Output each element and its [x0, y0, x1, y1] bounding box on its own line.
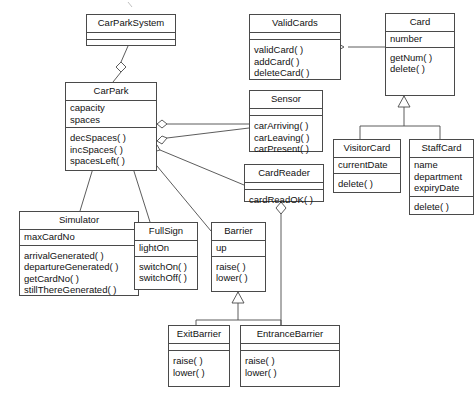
class-attributes-exitbarrier	[169, 344, 229, 351]
operation-row: decSpaces( )	[70, 132, 153, 144]
class-operations-entrancebarrier: raise( ) lower( )	[241, 351, 339, 380]
operation-row: validCard( )	[254, 44, 337, 56]
class-operations-carpark: decSpaces( ) incSpaces( ) spacesLeft( )	[66, 128, 156, 169]
class-attributes-carpark: capacity spaces	[66, 101, 156, 128]
operation-row: switchOn( )	[139, 261, 194, 273]
class-name-entrancebarrier: EntranceBarrier	[241, 326, 339, 344]
class-box-fullsign[interactable]: FullSign lightOn switchOn( ) switchOff( …	[134, 222, 198, 290]
class-attributes-card: number	[386, 32, 454, 48]
operation-row: getNum( )	[390, 52, 451, 64]
operation-row: spacesLeft( )	[70, 155, 153, 167]
generalization-triangle-card	[398, 96, 410, 107]
class-box-entrancebarrier[interactable]: EntranceBarrier raise( ) lower( )	[240, 325, 340, 387]
class-box-cardreader[interactable]: CardReader cardReadOK( )	[244, 164, 324, 202]
operation-row: lower( )	[216, 272, 262, 284]
operation-row: raise( )	[173, 355, 226, 367]
class-box-card[interactable]: Card number getNum( ) delete( )	[385, 13, 455, 96]
class-name-carparksystem: CarParkSystem	[87, 15, 175, 33]
aggregation-diamond-carparksystem	[116, 62, 126, 72]
operation-row: lower( )	[245, 367, 336, 379]
class-attributes-simulator: maxCardNo	[20, 230, 138, 246]
class-name-fullsign: FullSign	[135, 223, 197, 241]
class-attributes-visitorcard: currentDate	[334, 158, 400, 174]
operation-row: delete( )	[414, 201, 470, 213]
class-operations-visitorcard: delete( )	[334, 174, 400, 192]
class-operations-staffcard: delete( )	[410, 197, 473, 215]
class-operations-card: getNum( ) delete( )	[386, 48, 454, 77]
attribute-row: currentDate	[338, 159, 397, 171]
operation-row: lower( )	[173, 367, 226, 379]
class-name-cardreader: CardReader	[245, 165, 323, 183]
class-box-staffcard[interactable]: StaffCard name department expiryDate del…	[409, 139, 474, 215]
operation-row: switchOff( )	[139, 272, 194, 284]
attribute-row: department	[414, 171, 470, 183]
class-operations-barrier: raise( ) lower( )	[212, 257, 265, 286]
class-box-sensor[interactable]: Sensor carArriving( ) carLeaving( ) carP…	[249, 90, 323, 152]
operation-row: raise( )	[245, 355, 336, 367]
class-name-card: Card	[386, 14, 454, 32]
operation-row: arrivalGenerated( )	[24, 250, 135, 262]
operation-row: carLeaving( )	[254, 132, 319, 144]
attribute-row: spaces	[70, 114, 153, 126]
class-attributes-cardreader	[245, 183, 323, 190]
line-carpark-cardreader	[160, 150, 244, 185]
line-carpark-simulator	[80, 165, 94, 211]
class-attributes-staffcard: name department expiryDate	[410, 158, 473, 197]
generalization-triangle-barrier	[232, 292, 244, 303]
attribute-row: number	[390, 33, 451, 45]
operation-row: getCardNo( )	[24, 273, 135, 285]
class-attributes-carparksystem	[87, 33, 175, 40]
class-box-carparksystem[interactable]: CarParkSystem	[86, 14, 176, 46]
operation-row: carArriving( )	[254, 120, 319, 132]
attribute-row: lightOn	[139, 242, 194, 254]
attribute-row: up	[216, 242, 262, 254]
class-name-staffcard: StaffCard	[410, 140, 473, 158]
operation-row: departureGenerated( )	[24, 261, 135, 273]
operation-row: cardReadOK( )	[249, 194, 320, 206]
class-name-simulator: Simulator	[20, 212, 138, 230]
aggregation-diamond-carpark-sensor	[157, 136, 167, 144]
top-stub-mark	[128, 2, 132, 7]
class-attributes-entrancebarrier	[241, 344, 339, 351]
attribute-row: name	[414, 159, 470, 171]
class-operations-fullsign: switchOn( ) switchOff( )	[135, 257, 197, 286]
class-operations-sensor: carArriving( ) carLeaving( ) carPresent(…	[250, 116, 322, 157]
class-operations-carparksystem	[87, 40, 175, 48]
class-box-exitbarrier[interactable]: ExitBarrier raise( ) lower( )	[168, 325, 230, 387]
attribute-row: expiryDate	[414, 182, 470, 194]
class-attributes-fullsign: lightOn	[135, 241, 197, 257]
line-carparksystem-carpark-lower	[113, 72, 121, 82]
line-carparksystem-carpark-upper	[121, 46, 128, 62]
attribute-row: maxCardNo	[24, 231, 135, 243]
class-name-barrier: Barrier	[212, 223, 265, 241]
aggregation-diamond-carpark-validcards	[157, 120, 167, 128]
operation-row: delete( )	[338, 178, 397, 190]
operation-row: deleteCard( )	[254, 67, 337, 79]
class-name-sensor: Sensor	[250, 91, 322, 109]
class-operations-cardreader: cardReadOK( )	[245, 190, 323, 208]
class-attributes-barrier: up	[212, 241, 265, 257]
class-box-validcards[interactable]: ValidCards validCard( ) addCard( ) delet…	[249, 14, 341, 80]
operation-row: carPresent( )	[254, 143, 319, 155]
class-box-barrier[interactable]: Barrier up raise( ) lower( )	[211, 222, 266, 292]
operation-row: delete( )	[390, 63, 451, 75]
class-operations-validcards: validCard( ) addCard( ) deleteCard( )	[250, 40, 340, 81]
class-operations-simulator: arrivalGenerated( ) departureGenerated( …	[20, 246, 138, 298]
class-box-carpark[interactable]: CarPark capacity spaces decSpaces( ) inc…	[65, 82, 157, 171]
class-name-carpark: CarPark	[66, 83, 156, 101]
class-name-visitorcard: VisitorCard	[334, 140, 400, 158]
operation-row: stillThereGenerated( )	[24, 284, 135, 296]
class-box-visitorcard[interactable]: VisitorCard currentDate delete( )	[333, 139, 401, 193]
class-box-simulator[interactable]: Simulator maxCardNo arrivalGenerated( ) …	[19, 211, 139, 296]
line-carpark-sensor	[167, 128, 249, 138]
class-name-validcards: ValidCards	[250, 15, 340, 33]
class-attributes-sensor	[250, 109, 322, 116]
class-name-exitbarrier: ExitBarrier	[169, 326, 229, 344]
class-operations-exitbarrier: raise( ) lower( )	[169, 351, 229, 380]
attribute-row: capacity	[70, 102, 153, 114]
operation-row: raise( )	[216, 261, 262, 273]
uml-class-diagram-canvas: CarParkSystem CarPark capacity spaces de…	[0, 0, 476, 399]
line-carpark-barrier	[152, 160, 211, 231]
class-attributes-validcards	[250, 33, 340, 40]
operation-row: addCard( )	[254, 56, 337, 68]
